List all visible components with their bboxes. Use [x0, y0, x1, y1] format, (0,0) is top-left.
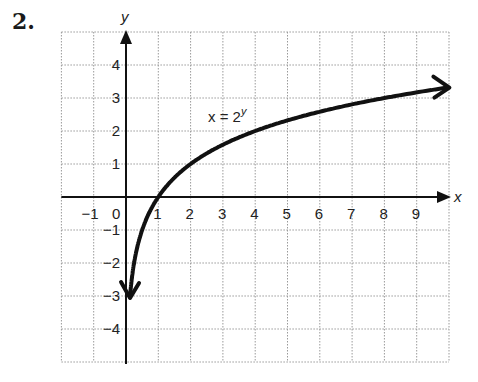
svg-text:4: 4 — [112, 56, 120, 73]
equation-base: x = 2 — [208, 108, 241, 125]
svg-text:8: 8 — [379, 205, 387, 222]
svg-text:9: 9 — [412, 205, 420, 222]
y-axis-label: y — [120, 8, 130, 25]
curve-x-equals-2-to-y — [130, 88, 447, 296]
log-graph: −101234567894321−1−2−3−4 x y x = 2y — [0, 0, 478, 382]
svg-text:1: 1 — [153, 205, 161, 222]
svg-text:−1: −1 — [103, 221, 120, 238]
svg-text:2: 2 — [112, 122, 120, 139]
svg-text:5: 5 — [283, 205, 291, 222]
x-axis-label: x — [453, 188, 462, 205]
svg-text:2: 2 — [186, 205, 194, 222]
svg-text:3: 3 — [218, 205, 226, 222]
svg-text:−2: −2 — [103, 254, 120, 271]
svg-text:−4: −4 — [103, 320, 120, 337]
svg-text:−1: −1 — [82, 205, 99, 222]
svg-text:1: 1 — [112, 155, 120, 172]
equation-label: x = 2y — [208, 105, 248, 125]
svg-text:0: 0 — [112, 205, 120, 222]
svg-text:−3: −3 — [103, 287, 120, 304]
svg-text:3: 3 — [112, 89, 120, 106]
svg-text:6: 6 — [315, 205, 323, 222]
svg-text:7: 7 — [347, 205, 355, 222]
svg-text:4: 4 — [250, 205, 258, 222]
curve-arrowheads — [121, 77, 449, 298]
equation-exponent: y — [240, 105, 248, 117]
axes — [61, 30, 451, 364]
